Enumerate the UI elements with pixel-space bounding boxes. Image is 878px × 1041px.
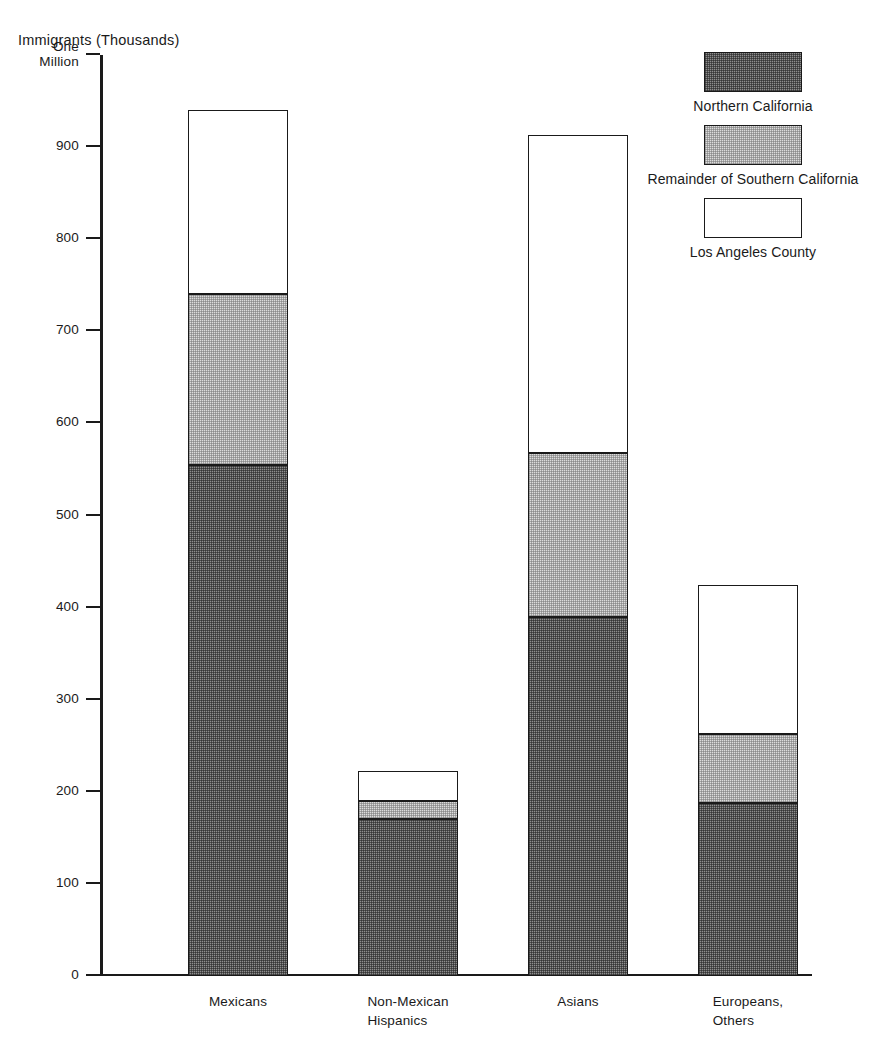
y-tick-1000: One Million xyxy=(86,53,100,55)
legend-swatch-la xyxy=(704,198,802,238)
y-tick-label-700: 700 xyxy=(56,323,79,339)
bar-segment-remainder[interactable] xyxy=(528,453,628,617)
y-axis-line xyxy=(100,55,103,976)
bar-asians[interactable]: Asians xyxy=(528,135,628,976)
x-axis-label-2: Asians xyxy=(557,992,598,1011)
x-axis-label-1: Non-Mexican Hispanics xyxy=(367,992,448,1030)
stacked-bar-chart: Immigrants (Thousands) One Million900800… xyxy=(0,0,878,1041)
y-tick-500: 500 xyxy=(86,514,100,516)
y-tick-label-300: 300 xyxy=(56,691,79,707)
bar-segment-remainder[interactable] xyxy=(358,801,458,819)
legend-entry-remainder[interactable]: Remainder of Southern California xyxy=(628,125,878,187)
y-tick-200: 200 xyxy=(86,790,100,792)
y-tick-600: 600 xyxy=(86,421,100,423)
bar-segment-la[interactable] xyxy=(358,771,458,801)
y-tick-label-1000: One Million xyxy=(39,39,79,69)
y-tick-300: 300 xyxy=(86,698,100,700)
y-tick-900: 900 xyxy=(86,145,100,147)
y-tick-label-800: 800 xyxy=(56,230,79,246)
legend-swatch-remainder xyxy=(704,125,802,165)
y-tick-700: 700 xyxy=(86,329,100,331)
legend-entry-la[interactable]: Los Angeles County xyxy=(628,198,878,260)
y-tick-800: 800 xyxy=(86,237,100,239)
y-tick-400: 400 xyxy=(86,606,100,608)
legend-entry-northern[interactable]: Northern California xyxy=(628,52,878,114)
bar-segment-remainder[interactable] xyxy=(698,734,798,803)
bar-segment-la[interactable] xyxy=(188,110,288,294)
y-tick-label-600: 600 xyxy=(56,415,79,431)
bar-segment-northern[interactable] xyxy=(698,803,798,976)
y-tick-0: 0 xyxy=(86,974,100,976)
bar-segment-northern[interactable] xyxy=(528,617,628,976)
y-tick-label-900: 900 xyxy=(56,138,79,154)
bar-segment-northern[interactable] xyxy=(358,819,458,976)
legend-label-northern: Northern California xyxy=(628,98,878,114)
bar-europeans-others[interactable]: Europeans, Others xyxy=(698,585,798,976)
bar-segment-la[interactable] xyxy=(528,135,628,453)
y-tick-label-400: 400 xyxy=(56,599,79,615)
bar-segment-remainder[interactable] xyxy=(188,294,288,464)
bar-segment-la[interactable] xyxy=(698,585,798,734)
bar-mexicans[interactable]: Mexicans xyxy=(188,110,288,976)
y-tick-label-0: 0 xyxy=(71,967,79,983)
y-tick-label-500: 500 xyxy=(56,507,79,523)
legend-label-la: Los Angeles County xyxy=(628,244,878,260)
y-tick-label-100: 100 xyxy=(56,875,79,891)
x-axis-label-3: Europeans, Others xyxy=(713,992,784,1030)
legend: Northern CaliforniaRemainder of Southern… xyxy=(628,52,878,271)
legend-swatch-northern xyxy=(704,52,802,92)
y-tick-label-200: 200 xyxy=(56,783,79,799)
legend-label-remainder: Remainder of Southern California xyxy=(628,171,878,187)
x-axis-label-0: Mexicans xyxy=(209,992,267,1011)
y-tick-100: 100 xyxy=(86,882,100,884)
bar-non-mexican-hispanics[interactable]: Non-Mexican Hispanics xyxy=(358,771,458,976)
bar-segment-northern[interactable] xyxy=(188,465,288,976)
